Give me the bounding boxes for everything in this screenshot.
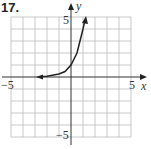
y-axis-arrow-icon	[68, 3, 74, 10]
x-max-label: 5	[129, 78, 135, 93]
x-axis-label: x	[141, 79, 146, 94]
curve-left-arrow-icon	[36, 75, 43, 80]
x-min-label: −5	[1, 78, 14, 93]
graph	[0, 0, 151, 149]
curve	[39, 20, 85, 77]
y-max-label: 5	[63, 13, 69, 28]
y-min-label: −5	[56, 128, 69, 143]
y-axis-label: y	[76, 0, 81, 14]
